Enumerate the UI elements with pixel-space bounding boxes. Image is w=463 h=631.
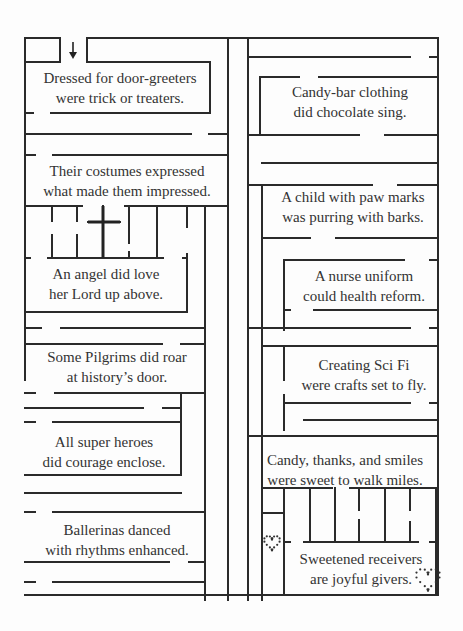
verse-line: A nurse uniform: [290, 266, 438, 286]
verse-line: were trick or treaters.: [38, 88, 202, 108]
verse-line: All super heroes: [32, 432, 176, 452]
verse-line: with rhythms enhanced.: [32, 540, 202, 560]
verse-line: was purring with barks.: [268, 207, 438, 227]
down-arrow-icon: [69, 42, 77, 59]
verse-angel: An angel did love her Lord up above.: [36, 264, 176, 304]
verse-line: Some Pilgrims did roar: [32, 347, 202, 367]
verse-line: Candy, thanks, and smiles: [252, 450, 438, 470]
verse-line: Dressed for door-greeters: [38, 68, 202, 88]
verse-door-greeters: Dressed for door-greeters were trick or …: [38, 68, 202, 108]
verse-ballerinas: Ballerinas danced with rhythms enhanced.: [32, 520, 202, 560]
verse-line: at history’s door.: [32, 367, 202, 387]
maze-walls: [25, 38, 438, 600]
verse-line: her Lord up above.: [36, 284, 176, 304]
verse-candy-thanks: Candy, thanks, and smiles were sweet to …: [252, 450, 438, 490]
verse-pilgrims: Some Pilgrims did roar at history’s door…: [32, 347, 202, 387]
verse-super-heroes: All super heroes did courage enclose.: [32, 432, 176, 472]
verse-line: Their costumes expressed: [32, 161, 222, 181]
verse-line: A child with paw marks: [268, 187, 438, 207]
dotted-heart-icon: [263, 535, 280, 551]
verse-line: what made them impressed.: [32, 181, 222, 201]
verse-line: did courage enclose.: [32, 452, 176, 472]
verse-sci-fi: Creating Sci Fi were crafts set to fly.: [290, 355, 438, 395]
verse-sweetened: Sweetened receivers are joyful givers.: [290, 549, 432, 589]
verse-candy-bar: Candy-bar clothing did chocolate sing.: [268, 82, 432, 122]
verse-line: were sweet to walk miles.: [252, 470, 438, 490]
verse-costumes: Their costumes expressed what made them …: [32, 161, 222, 201]
verse-line: Ballerinas danced: [32, 520, 202, 540]
verse-line: could health reform.: [290, 286, 438, 306]
verse-line: were crafts set to fly.: [290, 375, 438, 395]
verse-paw-marks: A child with paw marks was purring with …: [268, 187, 438, 227]
verse-line: are joyful givers.: [290, 569, 432, 589]
cross-icon: [88, 206, 120, 258]
verse-line: Creating Sci Fi: [290, 355, 438, 375]
verse-line: did chocolate sing.: [268, 102, 432, 122]
verse-line: Sweetened receivers: [290, 549, 432, 569]
verse-line: Candy-bar clothing: [268, 82, 432, 102]
verse-nurse: A nurse uniform could health reform.: [290, 266, 438, 306]
verse-line: An angel did love: [36, 264, 176, 284]
